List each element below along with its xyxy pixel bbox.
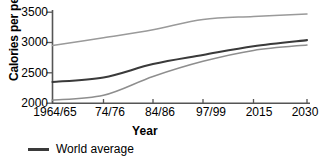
x-tick-label: 2030 [292,106,319,118]
y-axis-tick-labels: 3500 3000 2500 2000 [8,0,48,120]
legend: World average [28,142,134,156]
data-series-layer [53,14,308,100]
y-tick-label: 3500 [14,6,48,18]
x-tick-label: 2015 [246,106,273,118]
series-line [53,14,308,46]
line-chart: Calories per person 3500 3000 2500 2000 … [0,0,326,159]
legend-line-swatch [28,148,49,151]
y-tick-label: 2500 [14,67,48,79]
x-axis-title: Year [0,124,326,138]
x-tick-label: 97/99 [196,106,226,118]
x-tick-label: 74/76 [95,106,125,118]
legend-item-label: World average [56,143,134,155]
series-line [53,40,308,82]
y-tick-label: 3000 [14,36,48,48]
x-tick-label: 84/86 [145,106,175,118]
x-tick-label: 1964/65 [33,106,76,118]
series-line [53,45,308,100]
x-axis-tick-labels: 1964/65 74/76 84/86 97/99 2015 2030 [0,106,326,122]
x-axis-title-text: Year [132,124,158,138]
